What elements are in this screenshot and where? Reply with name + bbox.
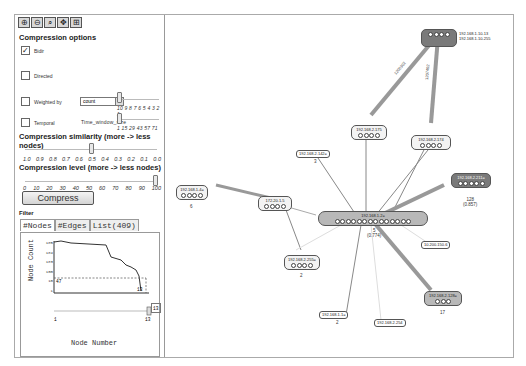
node-count: 3 xyxy=(314,159,317,164)
node-count: 17 xyxy=(440,310,445,315)
temporal-slider-thumb[interactable] xyxy=(117,113,122,124)
node-label: 192.168.2.128= xyxy=(427,293,459,298)
node-count: 2 xyxy=(300,273,303,278)
layout-icon[interactable]: ✥ xyxy=(57,17,69,28)
option-temporal[interactable]: Temporal xyxy=(21,118,55,127)
node-192-168-2-142[interactable]: 192.168.2.142= xyxy=(296,150,330,158)
tab-list[interactable]: List(409) xyxy=(90,219,139,231)
node-192-168-1-4[interactable]: 192.168.1.4= xyxy=(176,185,208,200)
temporal-slider-track[interactable] xyxy=(119,119,159,120)
node-stats: 5 (0.774) xyxy=(367,228,381,238)
weighted-slider-thumb[interactable] xyxy=(117,92,122,103)
toolbar: ⊕ ⊖ ⌕ ✥ ⊞ xyxy=(18,17,82,28)
option-label: Temporal xyxy=(34,120,55,126)
slider-max: 13 xyxy=(145,317,150,322)
option-label: Bidir xyxy=(34,48,44,54)
node-label: 10.200.150.6 xyxy=(424,242,447,247)
node-ratio: (0.857) xyxy=(463,202,477,207)
checkbox-bidir[interactable]: ✓ xyxy=(21,46,30,55)
node-label: 192.168.1.2= xyxy=(321,213,425,218)
y-axis-label: Node Count xyxy=(27,239,35,281)
node-label: 192.168.2.211= xyxy=(454,175,488,180)
zoom-in-icon[interactable]: ⊕ xyxy=(18,17,30,28)
option-label: Weighted by xyxy=(34,99,62,105)
tick: 0.5 xyxy=(88,156,96,162)
node-192-168-2-211[interactable]: 192.168.2.211= xyxy=(451,173,491,188)
y-tick: 1e5 xyxy=(41,239,53,249)
tick: 0.6 xyxy=(75,156,83,162)
filter-title: Filter xyxy=(19,210,34,216)
tick: 0.4 xyxy=(101,156,109,162)
node-number-input[interactable]: 13 xyxy=(151,303,161,313)
node-label: 192.168.2.142= xyxy=(299,151,327,156)
tick: 1.0 xyxy=(23,156,31,162)
control-panel: ⊕ ⊖ ⌕ ✥ ⊞ Compression options ✓ Bidir Di… xyxy=(15,15,165,357)
node-192-168-2-255[interactable]: 192.168.2.255= xyxy=(284,255,320,270)
level-slider-track[interactable] xyxy=(25,181,157,182)
checkbox-weighted[interactable] xyxy=(21,97,30,106)
node-label: 192.168.2.255= xyxy=(287,257,317,262)
weighted-slider-track[interactable] xyxy=(119,99,159,100)
zoom-fit-icon[interactable]: ⌕ xyxy=(44,17,56,28)
node-192-168-1-10[interactable] xyxy=(421,29,457,47)
weighted-scale: 10 9 8 7 6 5 4 3 2 1 xyxy=(117,105,164,117)
tick: 0.1 xyxy=(140,156,148,162)
node-label: 192.168.2.175 xyxy=(354,127,384,132)
similarity-slider-thumb[interactable] xyxy=(89,143,94,154)
option-bidir[interactable]: ✓ Bidir xyxy=(21,46,44,55)
tick: 0.2 xyxy=(127,156,135,162)
node-192-168-2-175[interactable]: 192.168.2.175 xyxy=(351,125,387,140)
checkbox-temporal[interactable] xyxy=(21,118,30,127)
slider-min: 1 xyxy=(54,317,57,322)
option-weighted[interactable]: Weighted by xyxy=(21,97,62,106)
tab-nodes[interactable]: #Nodes xyxy=(20,219,55,231)
filter-tabs: #Nodes #Edges List(409) xyxy=(20,219,139,231)
tick: 0.3 xyxy=(114,156,122,162)
tick: 90 xyxy=(139,185,145,191)
tick: 60 xyxy=(99,185,105,191)
marker-label: 13 xyxy=(137,287,142,292)
app-window: ⊕ ⊖ ⌕ ✥ ⊞ Compression options ✓ Bidir Di… xyxy=(14,14,514,358)
node-192-168-1-1[interactable]: 192.168.1.1= xyxy=(319,311,348,319)
similarity-scale: 1.0 0.9 0.8 0.7 0.6 0.5 0.4 0.3 0.2 0.1 … xyxy=(23,156,161,162)
option-directed[interactable]: Directed xyxy=(21,71,53,80)
y-tick: 1 xyxy=(41,287,53,297)
tick: 0.7 xyxy=(62,156,70,162)
node-192-168-1-2-center[interactable]: 192.168.1.2= xyxy=(318,211,428,226)
node-172-20-1-5[interactable]: 172.20.1.5 xyxy=(258,196,292,211)
y-tick: 1e4 xyxy=(41,249,53,259)
node-label: 172.20.1.5 xyxy=(261,198,289,203)
y-tick: 100 xyxy=(41,268,53,278)
node-192-168-2-174[interactable]: 192.168.2.174 xyxy=(411,135,451,150)
node-stats: 128 (0.857) xyxy=(463,197,477,207)
graph-canvas[interactable]: 1200302 1207402 192.168.1.10-13 192.168.… xyxy=(166,15,513,357)
settings-icon[interactable]: ⊞ xyxy=(70,17,82,28)
node-count: 2 xyxy=(336,320,339,325)
level-title: Compression level (more -> less nodes) xyxy=(19,163,161,172)
node-label: 192.168.1.4= xyxy=(179,187,205,192)
temporal-scale: 1 15 29 43 57 71 xyxy=(117,125,158,131)
option-label: Directed xyxy=(34,73,53,79)
threshold-label: 47 xyxy=(56,279,61,284)
tick: 100 xyxy=(152,185,161,191)
select-value: count xyxy=(83,98,95,104)
y-ticks: 1e5 1e4 1e3 100 10 1 xyxy=(41,239,53,296)
tick: 0.8 xyxy=(49,156,57,162)
zoom-out-icon[interactable]: ⊖ xyxy=(31,17,43,28)
tick: 0.0 xyxy=(153,156,161,162)
label-line: 192.168.1.10-255 xyxy=(459,36,490,41)
svg-text:1207402: 1207402 xyxy=(424,63,430,80)
node-label: 192.168.2.174 xyxy=(414,137,448,142)
checkbox-directed[interactable] xyxy=(21,71,30,80)
tab-edges[interactable]: #Edges xyxy=(55,219,90,231)
compress-button[interactable]: Compress xyxy=(22,191,94,205)
node-10-200-150-6[interactable]: 10.200.150.6 xyxy=(421,241,450,249)
node-192-168-2-254[interactable]: 192.168.2.254 xyxy=(374,319,406,327)
y-tick: 10 xyxy=(41,277,53,287)
node-label: 192.168.1.1= xyxy=(322,312,345,317)
node-count-panel: Node Count 1e5 1e4 1e3 100 10 1 47 13 1 … xyxy=(20,232,160,357)
node-192-168-2-128[interactable]: 192.168.2.128= xyxy=(424,291,462,306)
x-axis-label: Node Number xyxy=(71,339,117,347)
node-label-top-right: 192.168.1.10-13 192.168.1.10-255 xyxy=(459,31,490,41)
tick: 80 xyxy=(125,185,131,191)
